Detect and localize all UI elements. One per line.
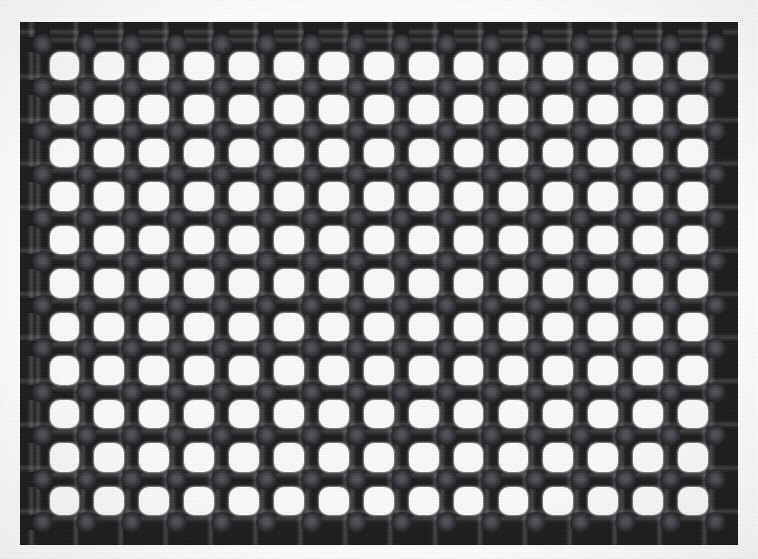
edge-stub bbox=[663, 22, 678, 44]
mesh-hole bbox=[184, 356, 214, 385]
edge-stub bbox=[20, 428, 42, 443]
mesh-hole bbox=[409, 182, 439, 211]
edge-stub bbox=[716, 254, 738, 269]
mesh-hole bbox=[454, 356, 484, 385]
mesh-hole bbox=[409, 269, 439, 298]
mesh-hole bbox=[229, 95, 259, 124]
mesh-hole bbox=[499, 139, 529, 168]
edge-stub bbox=[79, 22, 94, 44]
mesh-hole bbox=[94, 139, 124, 168]
mesh-hole bbox=[50, 269, 80, 298]
edge-stub bbox=[20, 211, 42, 226]
edge-stub bbox=[394, 22, 409, 44]
mesh-hole bbox=[409, 400, 439, 429]
mesh-hole bbox=[94, 356, 124, 385]
edge-stub bbox=[214, 22, 229, 44]
mesh-photograph bbox=[0, 0, 758, 559]
mesh-hole bbox=[50, 400, 80, 429]
mesh-hole bbox=[633, 400, 663, 429]
mesh-hole bbox=[678, 52, 708, 81]
mesh-hole bbox=[184, 226, 214, 255]
mesh-hole bbox=[633, 182, 663, 211]
mesh-hole bbox=[319, 487, 349, 516]
mesh-hole bbox=[319, 356, 349, 385]
edge-stub bbox=[169, 523, 184, 545]
mesh-hole bbox=[319, 52, 349, 81]
mesh-hole bbox=[229, 182, 259, 211]
edge-stub bbox=[573, 523, 588, 545]
mesh-hole bbox=[588, 356, 618, 385]
mesh-lattice bbox=[20, 22, 738, 545]
mesh-hole bbox=[319, 313, 349, 342]
mesh-hole bbox=[454, 269, 484, 298]
edge-stub bbox=[394, 523, 409, 545]
mesh-hole bbox=[409, 313, 439, 342]
edge-stub bbox=[716, 385, 738, 400]
mesh-hole bbox=[409, 139, 439, 168]
mesh-hole bbox=[409, 226, 439, 255]
mesh-hole bbox=[678, 313, 708, 342]
mesh-hole bbox=[184, 269, 214, 298]
mesh-hole bbox=[364, 226, 394, 255]
mesh-hole bbox=[588, 443, 618, 472]
mesh-hole bbox=[184, 182, 214, 211]
edge-stub bbox=[20, 515, 42, 530]
edge-stub bbox=[716, 515, 738, 530]
mesh-hole bbox=[499, 269, 529, 298]
edge-stub bbox=[20, 385, 42, 400]
mesh-hole bbox=[94, 400, 124, 429]
mesh-hole bbox=[184, 52, 214, 81]
edge-stub bbox=[716, 211, 738, 226]
mesh-hole bbox=[274, 487, 304, 516]
edge-stub bbox=[124, 523, 139, 545]
mesh-hole bbox=[499, 443, 529, 472]
mesh-hole bbox=[94, 95, 124, 124]
edge-stub bbox=[716, 37, 738, 52]
mesh-hole bbox=[50, 356, 80, 385]
mesh-hole bbox=[319, 95, 349, 124]
mesh-hole bbox=[274, 443, 304, 472]
edge-stub bbox=[484, 523, 499, 545]
edge-stub bbox=[663, 523, 678, 545]
mesh-hole bbox=[364, 182, 394, 211]
edge-stub bbox=[349, 523, 364, 545]
mesh-hole bbox=[409, 95, 439, 124]
mesh-hole bbox=[633, 95, 663, 124]
mesh-hole bbox=[94, 52, 124, 81]
mesh-hole bbox=[274, 356, 304, 385]
mesh-hole bbox=[139, 487, 169, 516]
mesh-hole bbox=[543, 487, 573, 516]
mesh-hole bbox=[543, 139, 573, 168]
edge-stub bbox=[79, 523, 94, 545]
mesh-hole bbox=[499, 52, 529, 81]
edge-stub bbox=[528, 22, 543, 44]
edge-stub bbox=[439, 22, 454, 44]
mesh-hole bbox=[678, 95, 708, 124]
mesh-hole bbox=[454, 313, 484, 342]
mesh-hole bbox=[588, 313, 618, 342]
mesh-hole bbox=[229, 356, 259, 385]
mesh-hole bbox=[139, 95, 169, 124]
mesh-hole bbox=[364, 139, 394, 168]
mesh-hole bbox=[364, 269, 394, 298]
mesh-hole bbox=[633, 487, 663, 516]
mesh-hole bbox=[50, 95, 80, 124]
mesh-hole bbox=[50, 487, 80, 516]
edge-stub bbox=[20, 254, 42, 269]
mesh-hole bbox=[543, 356, 573, 385]
mesh-hole bbox=[499, 400, 529, 429]
edge-stub bbox=[20, 80, 42, 95]
mesh-hole bbox=[543, 226, 573, 255]
mesh-hole bbox=[678, 226, 708, 255]
mesh-hole bbox=[184, 313, 214, 342]
mesh-hole bbox=[454, 400, 484, 429]
edge-stub bbox=[716, 341, 738, 356]
mesh-hole bbox=[588, 95, 618, 124]
edge-stub bbox=[304, 523, 319, 545]
mesh-hole bbox=[454, 95, 484, 124]
mesh-hole bbox=[229, 443, 259, 472]
mesh-hole bbox=[454, 182, 484, 211]
edge-stub bbox=[618, 523, 633, 545]
mesh-hole bbox=[94, 182, 124, 211]
mesh-hole bbox=[543, 182, 573, 211]
